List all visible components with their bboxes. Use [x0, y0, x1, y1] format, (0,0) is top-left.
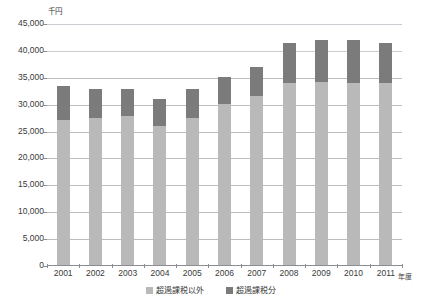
bar-2004 [153, 99, 166, 265]
x-tick-label-2002: 2002 [77, 268, 113, 279]
bar-2011 [379, 43, 392, 265]
x-tick-label-2010: 2010 [336, 268, 372, 279]
bar-2007 [250, 67, 263, 265]
bar-2002 [89, 89, 102, 265]
bar-segment-surcharge-2008 [283, 43, 296, 82]
x-tick-label-2009: 2009 [303, 268, 339, 279]
x-tick-label-2004: 2004 [142, 268, 178, 279]
bar-segment-surcharge-2002 [89, 89, 102, 118]
x-tick-mark-10 [402, 264, 403, 268]
bar-segment-standard-2001 [57, 120, 70, 265]
bar-segment-standard-2011 [379, 83, 392, 265]
stacked-bar-chart: 千円 05,00010,00015,00020,00025,00030,0003… [0, 0, 422, 308]
bar-segment-standard-2005 [186, 118, 199, 265]
bar-segment-surcharge-2004 [153, 99, 166, 126]
legend-item-1: 超過課税分 [226, 286, 276, 295]
bar-2003 [121, 89, 134, 265]
y-tick-label-45000: 45,000 [0, 19, 44, 28]
bars-layer [47, 24, 402, 266]
bar-segment-surcharge-2011 [379, 43, 392, 83]
bar-segment-standard-2010 [347, 83, 360, 265]
bar-segment-surcharge-2005 [186, 89, 199, 118]
x-tick-label-2006: 2006 [207, 268, 243, 279]
y-tick-label-25000: 25,000 [0, 127, 44, 136]
bar-segment-standard-2004 [153, 126, 166, 265]
x-axis-title: 年度 [398, 273, 412, 281]
bar-2008 [283, 43, 296, 265]
bar-segment-surcharge-2001 [57, 86, 70, 119]
x-tick-mark-origin [47, 264, 48, 268]
y-tick-label-0: 0 [0, 261, 44, 270]
y-tick-label-35000: 35,000 [0, 73, 44, 82]
bar-segment-standard-2008 [283, 83, 296, 265]
bar-segment-surcharge-2007 [250, 67, 263, 96]
x-tick-label-2005: 2005 [174, 268, 210, 279]
y-tick-label-30000: 30,000 [0, 100, 44, 109]
bar-segment-standard-2002 [89, 118, 102, 265]
legend-swatch-icon-1 [226, 287, 233, 294]
x-axis-tick-labels: 2001200220032004200520062007200820092010… [47, 268, 402, 282]
legend-label-1: 超過課税分 [236, 286, 276, 295]
legend-item-0: 超過課税以外 [146, 286, 204, 295]
bar-segment-surcharge-2010 [347, 40, 360, 83]
bar-segment-standard-2006 [218, 104, 231, 265]
y-tick-label-20000: 20,000 [0, 153, 44, 162]
x-tick-label-2007: 2007 [239, 268, 275, 279]
x-tick-label-2003: 2003 [110, 268, 146, 279]
bar-2006 [218, 77, 231, 265]
legend-label-0: 超過課税以外 [156, 286, 204, 295]
x-tick-label-2008: 2008 [271, 268, 307, 279]
y-tick-label-40000: 40,000 [0, 46, 44, 55]
bar-segment-surcharge-2006 [218, 77, 231, 104]
bar-segment-surcharge-2003 [121, 89, 134, 115]
bar-segment-standard-2003 [121, 116, 134, 266]
bar-segment-standard-2009 [315, 82, 328, 265]
y-tick-label-15000: 15,000 [0, 180, 44, 189]
chart-legend: 超過課税以外 超過課税分 [0, 286, 422, 295]
legend-swatch-icon-0 [146, 287, 153, 294]
bar-2009 [315, 40, 328, 265]
bar-2010 [347, 40, 360, 265]
y-tick-label-10000: 10,000 [0, 207, 44, 216]
x-tick-label-2001: 2001 [45, 268, 81, 279]
y-axis-unit-label: 千円 [48, 7, 62, 16]
bar-segment-standard-2007 [250, 96, 263, 265]
bar-2005 [186, 89, 199, 265]
bar-2001 [57, 86, 70, 265]
y-tick-label-5000: 5,000 [0, 234, 44, 243]
bar-segment-surcharge-2009 [315, 40, 328, 82]
